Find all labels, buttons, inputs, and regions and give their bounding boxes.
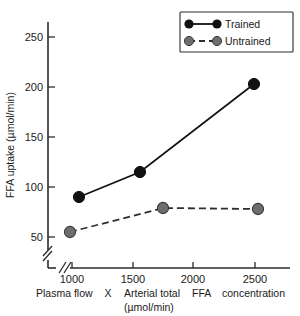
- y-axis-label: FFA uptake (µmol/min): [4, 92, 16, 198]
- x-axis-break-icon: [59, 262, 71, 273]
- x-axis-label-part2: X: [104, 287, 111, 299]
- legend-marker-trained-left: [184, 19, 193, 28]
- series-untrained: [64, 202, 263, 237]
- trained-line: [79, 84, 254, 197]
- legend-label-trained: Trained: [225, 18, 260, 30]
- untrained-point: [252, 203, 263, 214]
- x-axis-label-units: (µmol/min): [124, 301, 174, 313]
- x-axis-label-part1: Plasma flow: [36, 287, 93, 299]
- legend-label-untrained: Untrained: [225, 35, 271, 47]
- trained-point: [134, 166, 145, 177]
- x-tick-label-2000: 2000: [181, 273, 205, 285]
- x-axis-label-part3: Arterial total: [124, 287, 180, 299]
- series-trained: [73, 78, 259, 202]
- legend-marker-untrained-right: [212, 36, 221, 45]
- x-axis-group: 1000 1500 2000 2500 Plasma flow X Arteri…: [36, 262, 290, 313]
- x-axis-label-part4: FFA: [192, 287, 211, 299]
- y-tick-label-250: 250: [25, 31, 43, 43]
- x-tick-label-1500: 1500: [121, 273, 145, 285]
- x-tick-label-1000: 1000: [60, 273, 84, 285]
- y-tick-label-100: 100: [25, 181, 43, 193]
- untrained-point: [157, 202, 168, 213]
- chart-figure: 250 200 150 100 50 FFA uptake (µmol/min)…: [0, 0, 300, 316]
- legend-marker-trained-right: [212, 19, 221, 28]
- line-chart: 250 200 150 100 50 FFA uptake (µmol/min)…: [0, 0, 300, 316]
- x-axis-label-part5: concentration: [222, 287, 285, 299]
- untrained-point: [64, 226, 75, 237]
- x-tick-label-2500: 2500: [243, 273, 267, 285]
- y-tick-label-50: 50: [31, 231, 43, 243]
- y-tick-label-200: 200: [25, 81, 43, 93]
- trained-point: [248, 78, 259, 89]
- chart-legend: Trained Untrained: [180, 12, 293, 52]
- legend-marker-untrained-left: [184, 36, 193, 45]
- y-axis-group: 250 200 150 100 50 FFA uptake (µmol/min): [4, 22, 55, 268]
- y-tick-label-150: 150: [25, 131, 43, 143]
- trained-point: [73, 191, 84, 202]
